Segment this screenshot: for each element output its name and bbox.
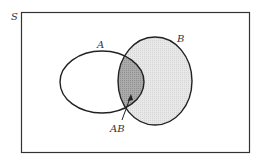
universe-label: S	[11, 11, 18, 22]
set-a-label: A	[96, 39, 104, 50]
venn-diagram: S A B AB	[0, 0, 261, 161]
intersection-label: AB	[109, 123, 125, 134]
set-b-label: B	[176, 33, 184, 44]
